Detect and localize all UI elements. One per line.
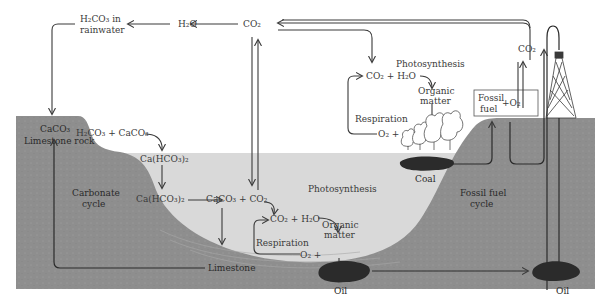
arrow-land-respiration xyxy=(348,76,377,134)
label-land-organic-1: Organic xyxy=(418,86,455,96)
label-land-photosynthesis: Photosynthesis xyxy=(396,59,465,69)
label-water-respiration: Respiration xyxy=(256,238,309,248)
label-precipitate: CaCO₃ + CO₂ xyxy=(206,194,268,204)
label-bicarbonate-2: Ca(HCO₃)₂ xyxy=(136,194,185,204)
arrow-rain-to-limestone xyxy=(52,24,75,114)
label-oil-well: Oil xyxy=(556,286,569,296)
label-oil-sea: Oil xyxy=(334,286,347,296)
label-fossil-cycle-1: Fossil fuel xyxy=(460,188,506,198)
carbon-cycle-diagram: H₂CO₃ in rainwater H₂O CO₂ CO₂ H₂CO₃ + C… xyxy=(0,0,595,301)
label-rainwater: rainwater xyxy=(80,25,125,35)
coal-deposit xyxy=(400,157,454,171)
label-limestone: Limestone xyxy=(208,263,256,273)
label-fossil-fuel-2: fuel xyxy=(480,104,497,114)
label-h2o: H₂O xyxy=(178,19,197,29)
label-co2-chimney: CO₂ xyxy=(518,44,536,54)
label-land-reactants: CO₂ + H₂O xyxy=(366,71,416,81)
label-coal: Coal xyxy=(415,174,436,184)
label-water-reactants: CO₂ + H₂O xyxy=(270,214,320,224)
label-water-organic-1: Organic xyxy=(322,220,359,230)
label-water-organic-2: matter xyxy=(324,230,355,240)
label-carbonate-cycle-1: Carbonate xyxy=(72,188,120,198)
label-h2co3-rain: H₂CO₃ in xyxy=(80,14,121,24)
diagram-canvas: H₂CO₃ in rainwater H₂O CO₂ CO₂ H₂CO₃ + C… xyxy=(0,0,595,301)
label-land-organic-2: matter xyxy=(420,96,451,106)
label-limestone-rock: Limestone rock xyxy=(24,136,95,146)
label-land-respiration: Respiration xyxy=(355,114,408,124)
label-carbonate-cycle-2: cycle xyxy=(82,199,105,209)
line-top-return xyxy=(282,20,530,28)
label-water-o2: O₂ + xyxy=(300,250,321,260)
label-fossil-o2: +O₂ xyxy=(502,98,521,108)
arrow-chimney-to-co2 xyxy=(278,23,530,60)
label-bicarbonate-1: Ca(HCO₃)₂ xyxy=(140,154,189,164)
label-fossil-fuel-1: Fossil xyxy=(478,93,504,103)
label-fossil-cycle-2: cycle xyxy=(470,199,493,209)
arrow-co2-to-land-photosynthesis xyxy=(278,30,372,62)
label-co2-top: CO₂ xyxy=(243,19,261,29)
label-water-photosynthesis: Photosynthesis xyxy=(308,184,377,194)
oil-derrick xyxy=(546,52,576,118)
trees-icon xyxy=(401,111,463,150)
label-land-o2: O₂ + xyxy=(378,129,399,139)
label-rock-formula: CaCO₃ xyxy=(40,124,71,134)
